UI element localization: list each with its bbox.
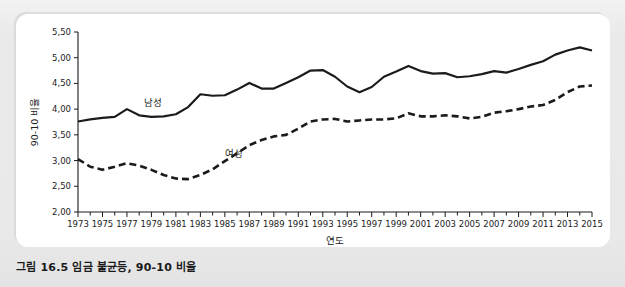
y-tick-label: 5,00: [52, 53, 71, 63]
y-tick-label: 4,00: [52, 104, 71, 114]
x-tick-label: 2007: [483, 219, 505, 229]
x-tick-label: 2001: [410, 219, 432, 229]
x-tick-label: 2015: [581, 219, 603, 229]
x-tick-label: 2005: [459, 219, 481, 229]
y-axis-title: 90-10 비율: [29, 98, 40, 147]
x-tick-label: 2009: [508, 219, 530, 229]
y-tick-label: 3,50: [52, 130, 71, 140]
x-tick-label: 1991: [287, 219, 309, 229]
x-tick-label: 1997: [361, 219, 383, 229]
x-tick-label: 1979: [141, 219, 163, 229]
x-tick-label: 2011: [532, 219, 554, 229]
figure-page: 2,002,503,003,504,004,505,005,50 1973197…: [0, 0, 625, 287]
series-inline-labels: 남성여성: [144, 97, 243, 160]
x-tick-label: 1987: [239, 219, 261, 229]
x-axis: 1973197519771979198119831985198719891991…: [67, 212, 603, 229]
y-tick-label: 3,00: [52, 156, 71, 166]
x-tick-label: 1977: [116, 219, 138, 229]
x-tick-label: 1989: [263, 219, 285, 229]
x-tick-label: 1983: [190, 219, 212, 229]
y-tick-label: 2,00: [52, 207, 71, 217]
y-tick-label: 4,50: [52, 78, 71, 88]
data-series-group: [78, 47, 592, 179]
x-tick-label: 1999: [385, 219, 407, 229]
x-tick-label: 2013: [557, 219, 579, 229]
x-tick-label: 1993: [312, 219, 334, 229]
chart-card: 2,002,503,003,504,004,505,005,50 1973197…: [16, 14, 610, 247]
series-label-male: 남성: [144, 97, 162, 108]
x-tick-label: 1975: [92, 219, 114, 229]
series-label-female: 여성: [225, 148, 243, 159]
wage-inequality-line-chart: 2,002,503,003,504,004,505,005,50 1973197…: [16, 14, 610, 247]
series-line-male: [78, 47, 592, 121]
figure-caption: 그림 16.5 임금 불균등, 90-10 비율: [16, 258, 196, 274]
x-tick-label: 1995: [336, 219, 358, 229]
x-tick-label: 1985: [214, 219, 236, 229]
x-tick-label: 1981: [165, 219, 187, 229]
y-tick-label: 5,50: [52, 27, 71, 37]
x-tick-label: 1973: [67, 219, 89, 229]
x-tick-label: 2003: [434, 219, 456, 229]
y-tick-label: 2,50: [52, 181, 71, 191]
y-axis: 2,002,503,003,504,004,505,005,50: [52, 27, 78, 217]
x-axis-title: 연도: [326, 235, 344, 246]
